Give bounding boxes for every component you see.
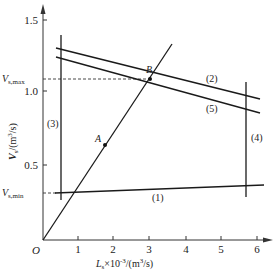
origin-label: O (32, 244, 40, 256)
x-tick-label: 2 (110, 243, 116, 255)
line-2 (56, 48, 260, 99)
x-axis-arrow-icon (263, 238, 273, 243)
x-axis-label: Ls×10-3/(m3/s) (95, 257, 153, 271)
point-a-label: A (94, 133, 102, 144)
y-tick-label: 0.5 (24, 159, 38, 171)
vsmin-label: Vs,min (2, 187, 24, 200)
chart: 1.5 1.0 0.5 1 2 3 4 5 6 O Ls×10-3/(m3/s)… (0, 0, 277, 272)
line-4-label: (4) (251, 132, 263, 144)
line-5-label: (5) (206, 103, 218, 115)
x-tick-label: 1 (75, 243, 81, 255)
x-tick-label: 4 (183, 243, 189, 255)
point-b-marker (148, 77, 152, 81)
line-2-label: (2) (206, 73, 218, 85)
y-tick-label: 1.5 (24, 14, 38, 26)
y-axis-arrow-icon (41, 4, 46, 14)
line-1-label: (1) (152, 192, 164, 204)
x-tick-label: 3 (146, 243, 152, 255)
vsmax-label: Vs,max (2, 73, 25, 86)
line-3-label: (3) (47, 118, 59, 130)
point-a-marker (103, 143, 107, 147)
x-tick-label: 6 (254, 243, 260, 255)
point-b-label: B (146, 64, 152, 75)
y-tick-label: 1.0 (24, 85, 38, 97)
y-axis-label: Vs/(m3/s) (6, 123, 20, 160)
operating-line (43, 44, 172, 240)
x-tick-label: 5 (218, 243, 224, 255)
